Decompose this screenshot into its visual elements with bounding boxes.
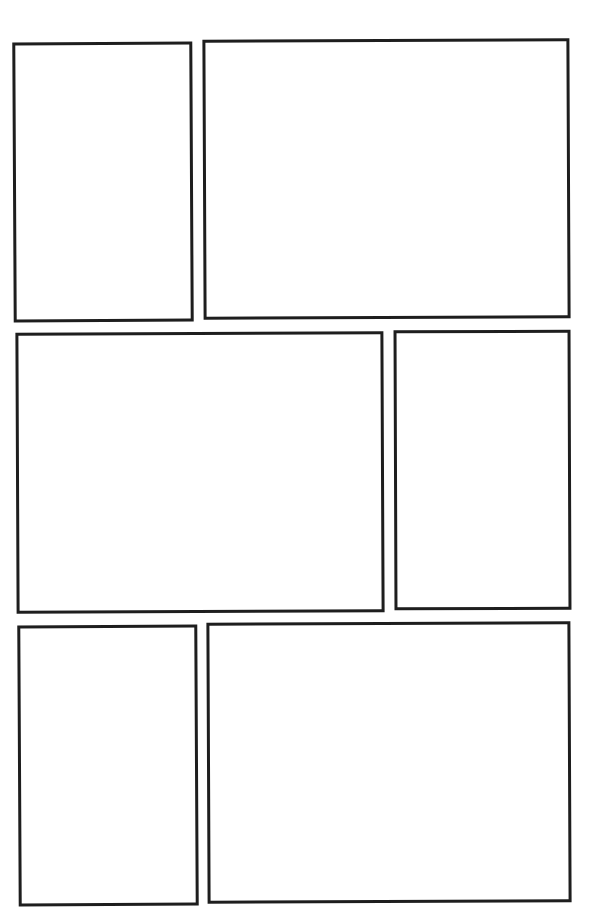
panel-1 bbox=[12, 42, 193, 323]
comic-page bbox=[0, 0, 602, 923]
panel-2 bbox=[202, 38, 570, 320]
panel-3 bbox=[15, 331, 384, 614]
panel-5 bbox=[17, 625, 198, 907]
panel-4 bbox=[394, 330, 572, 611]
panel-6 bbox=[206, 621, 571, 904]
